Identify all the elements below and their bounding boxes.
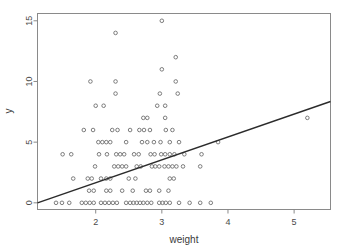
scatter-plot-figure: 051015 2345 weight y	[0, 0, 347, 251]
y-axis-title: y	[3, 109, 14, 114]
x-tick-label: 4	[225, 217, 230, 227]
y-tick-label: 0	[25, 200, 35, 205]
y-tick-label: 5	[25, 140, 35, 145]
x-tick-label: 2	[93, 217, 98, 227]
x-tick-label: 3	[159, 217, 164, 227]
chart-canvas: 051015 2345 weight y	[0, 0, 347, 251]
y-tick-label: 15	[25, 16, 35, 26]
x-tick-label: 5	[292, 217, 297, 227]
figure-background	[0, 0, 347, 251]
y-tick-label: 10	[25, 76, 35, 86]
x-axis-title: weight	[169, 234, 199, 245]
